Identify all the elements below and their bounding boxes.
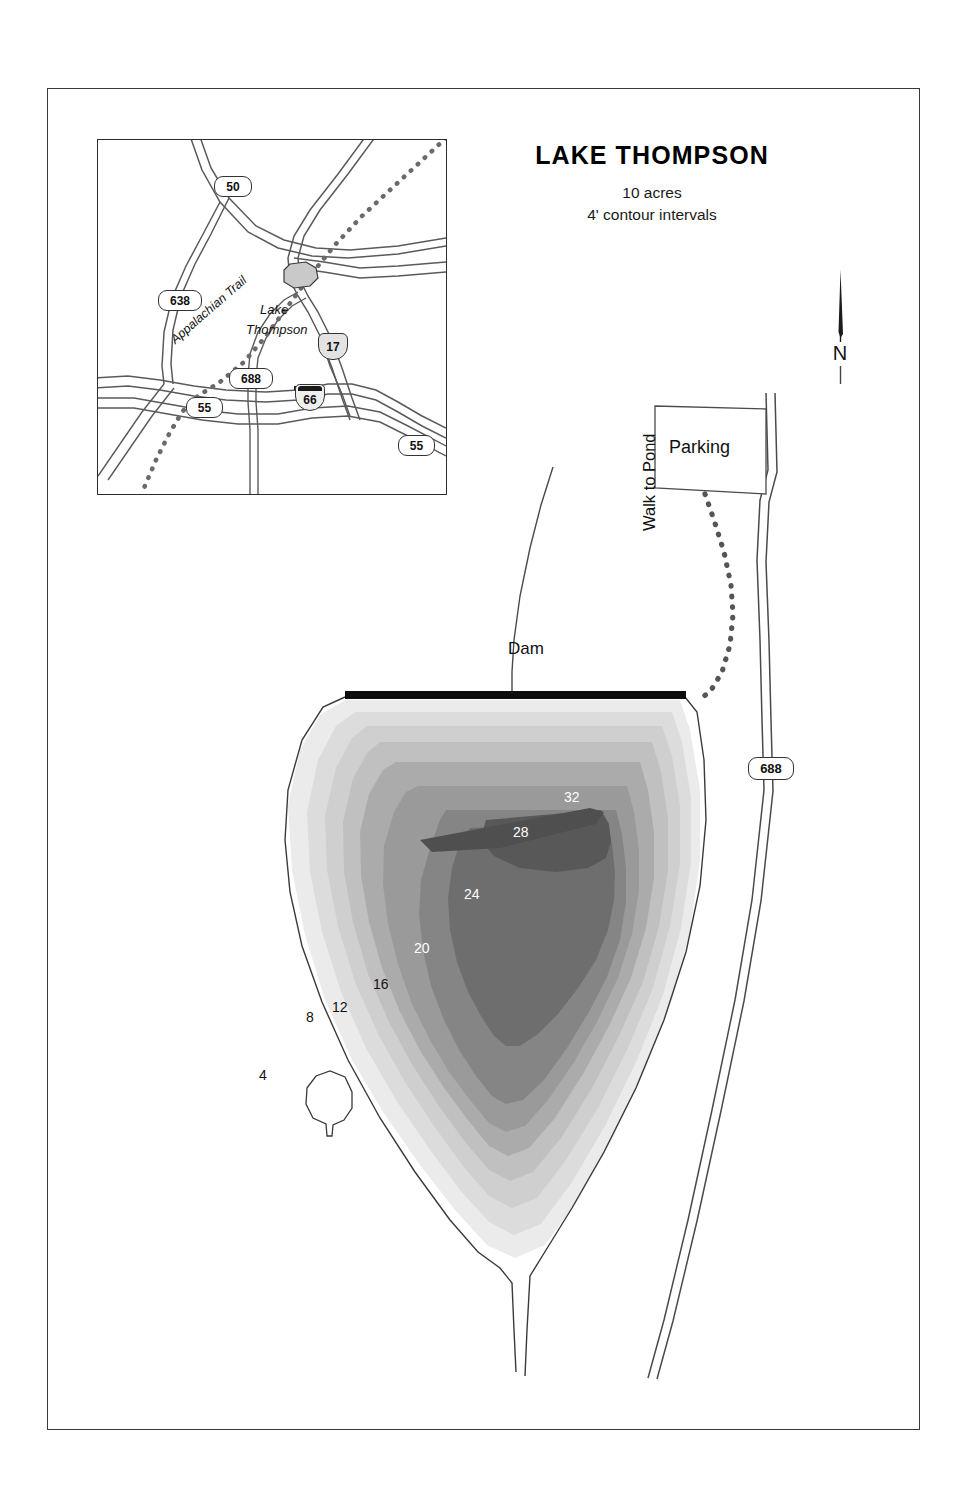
appalachian-trail-path xyxy=(144,139,446,488)
dam-structure xyxy=(345,691,686,699)
inset-route-55-corridor xyxy=(97,376,446,456)
route-shield-688-main: 688 xyxy=(748,757,794,780)
inset-shield-50: 50 xyxy=(214,176,252,197)
inset-locator-map: 50 638 688 55 55 17 66 Lake Thompson App… xyxy=(97,139,447,495)
walk-to-pond-label: Walk to Pond xyxy=(640,433,659,531)
walk-to-pond-trail xyxy=(698,494,733,700)
inset-shield-55-east: 55 xyxy=(398,435,435,456)
contour-label-28: 28 xyxy=(513,824,529,840)
inlet-stream xyxy=(512,467,553,695)
lake-depth-bands xyxy=(288,700,700,1258)
inset-artwork xyxy=(98,140,446,494)
island xyxy=(306,1071,352,1136)
contour-label-24: 24 xyxy=(464,886,480,902)
inset-shield-688: 688 xyxy=(229,368,273,389)
contour-label-4: 4 xyxy=(259,1067,267,1083)
contour-label-8: 8 xyxy=(306,1009,314,1025)
interstate-top-bar xyxy=(298,386,322,391)
inset-shield-17: 17 xyxy=(318,333,348,360)
inset-lake-shape xyxy=(284,262,318,288)
map-page: LAKE THOMPSON 10 acres 4' contour interv… xyxy=(0,0,965,1508)
inset-shield-55-west: 55 xyxy=(186,397,223,418)
contour-label-20: 20 xyxy=(414,940,430,956)
contour-label-16: 16 xyxy=(373,976,389,992)
parking-label: Parking xyxy=(669,437,730,458)
contour-label-12: 12 xyxy=(332,999,348,1015)
inset-shield-638: 638 xyxy=(158,290,202,311)
dam-label: Dam xyxy=(508,639,544,659)
contour-label-32: 32 xyxy=(564,789,580,805)
inset-lake-label-line2: Thompson xyxy=(246,322,307,337)
inset-lake-label-line1: Lake xyxy=(260,302,288,317)
